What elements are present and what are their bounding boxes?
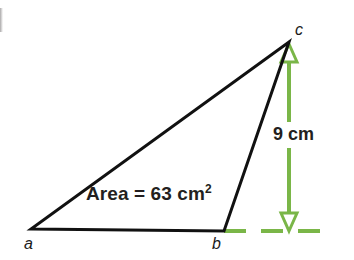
figure-canvas: a b c Area = 63 cm2 9 cm [0,0,354,260]
vertex-label-a: a [24,236,33,252]
area-annotation-exponent: 2 [205,182,212,196]
area-annotation-text: Area = 63 cm [86,183,205,204]
dimension-arrowhead-down-icon [281,213,297,231]
vertex-label-b: b [212,236,221,252]
height-dimension-label: 9 cm [270,123,317,145]
area-annotation: Area = 63 cm2 [86,184,212,203]
vertex-label-c: c [295,22,303,38]
